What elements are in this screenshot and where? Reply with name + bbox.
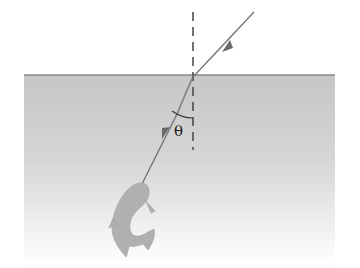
incident-ray [193, 12, 254, 77]
angle-theta-label: θ [174, 122, 183, 140]
refraction-diagram: θ [0, 0, 360, 268]
water-region [24, 75, 335, 265]
incident-arrow-icon [222, 40, 233, 52]
